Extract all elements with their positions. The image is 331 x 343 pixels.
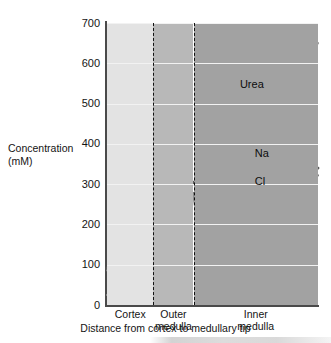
- gridline: [107, 265, 318, 266]
- y-tick-label: 700: [72, 18, 100, 29]
- gridline: [107, 144, 318, 145]
- gridline: [107, 224, 318, 225]
- y-tick-label: 600: [72, 58, 100, 69]
- gridline: [107, 104, 318, 105]
- series-label-na: Na: [255, 148, 269, 159]
- x-category-label-line1: Inner: [216, 308, 296, 320]
- region-divider: [194, 23, 195, 305]
- gridline: [107, 63, 318, 64]
- gridline: [107, 23, 318, 24]
- region-band: [194, 23, 318, 305]
- series-label-cl: Cl: [255, 176, 265, 187]
- x-axis-line: [105, 305, 319, 307]
- y-tick-label: 300: [72, 179, 100, 190]
- gridline: [107, 184, 318, 185]
- scan-artifact: [150, 337, 331, 343]
- y-tick-label: 500: [72, 98, 100, 109]
- y-tick-label: 200: [72, 219, 100, 230]
- y-axis-title-line2: (mM): [8, 155, 104, 168]
- region-band: [153, 23, 193, 305]
- x-category-label-line1: Outer: [133, 308, 213, 320]
- region-band: [107, 23, 153, 305]
- y-tick-label: 400: [72, 138, 100, 149]
- series-label-urea: Urea: [240, 79, 264, 90]
- y-tick-label: 100: [72, 259, 100, 270]
- region-divider: [153, 23, 154, 305]
- plot-area: [107, 23, 318, 305]
- x-axis-title: Distance from cortex to medullary tip: [0, 322, 331, 334]
- kidney-concentration-chart: Concentration (mM) 010020030040050060070…: [0, 0, 331, 343]
